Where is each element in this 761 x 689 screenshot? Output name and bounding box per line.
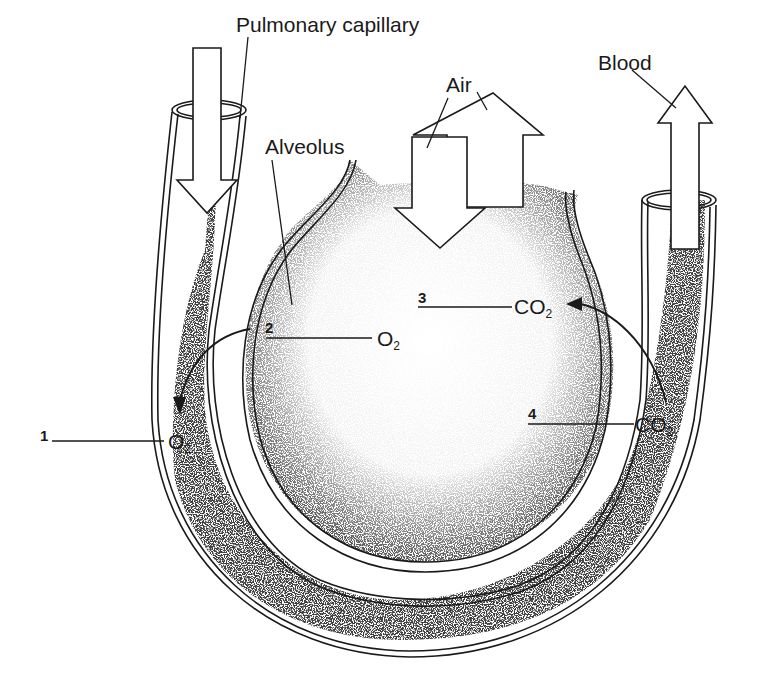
marker-number-3: 3 — [418, 290, 426, 305]
marker-3-co2: CO2 — [514, 296, 552, 320]
molecule-subscript: 2 — [184, 442, 191, 456]
label-alveolus: Alveolus — [265, 136, 344, 157]
molecule-symbol: CO — [514, 295, 546, 318]
label-blood: Blood — [598, 52, 652, 73]
label-air: Air — [446, 74, 472, 95]
molecule-symbol: O — [168, 430, 184, 453]
marker-2-o2: O2 — [377, 328, 400, 352]
marker-1-o2: O2 — [168, 431, 191, 455]
molecule-subscript: 2 — [546, 307, 553, 321]
molecule-symbol: O — [377, 327, 393, 350]
molecule-subscript: 2 — [667, 425, 674, 439]
marker-4-co2: CO2 — [635, 414, 673, 438]
molecule-subscript: 2 — [393, 339, 400, 353]
blood-in-arrow — [177, 48, 237, 213]
label-pulmonary-capillary: Pulmonary capillary — [236, 14, 419, 35]
marker-number-4: 4 — [528, 406, 536, 421]
marker-number-1: 1 — [40, 428, 48, 443]
molecule-symbol: CO — [635, 413, 667, 436]
marker-number-2: 2 — [265, 320, 273, 335]
